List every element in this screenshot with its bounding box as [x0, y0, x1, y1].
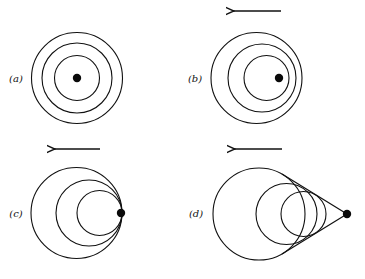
wavefront-circle	[77, 191, 122, 236]
wavefront-circle	[281, 192, 326, 237]
point-source-dot	[343, 210, 351, 218]
shock-cone-tangents	[282, 174, 347, 254]
panel-label-a: (a)	[9, 73, 23, 84]
point-source-dot	[275, 74, 283, 82]
wavefronts	[31, 168, 122, 259]
panel-label-d: (d)	[189, 208, 203, 219]
point-source-dot	[117, 209, 125, 217]
panel-c: (c)	[9, 149, 125, 259]
wavefront-circle	[211, 33, 302, 124]
mach-cone-line	[282, 174, 347, 214]
wavefront-circle	[56, 180, 122, 246]
wavefront-circle	[213, 168, 305, 260]
panel-label-c: (c)	[9, 208, 23, 219]
panel-d: (d)	[189, 149, 351, 260]
wavefronts	[211, 33, 302, 124]
wavefront-circle	[256, 184, 317, 245]
panel-label-b: (b)	[188, 73, 202, 84]
point-source-dot	[73, 74, 81, 82]
mach-cone-line	[282, 214, 347, 254]
panel-b: (b)	[188, 11, 302, 124]
figure-canvas: (a) (b) (c) (d)	[0, 0, 365, 279]
doppler-wavefront-figure: (a) (b) (c) (d)	[0, 0, 365, 279]
wavefronts	[213, 168, 326, 260]
panel-a: (a)	[9, 33, 122, 124]
wavefront-circle	[228, 44, 296, 112]
